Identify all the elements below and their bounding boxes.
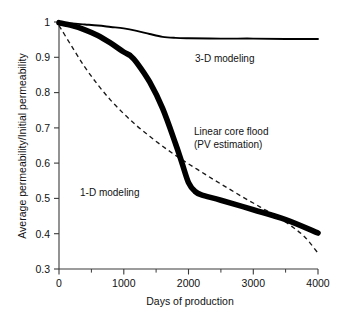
y-axis-ticks xyxy=(54,22,59,269)
y-axis-title: Average permeability/Initial permeabilit… xyxy=(16,53,28,239)
x-tick-label-1000: 1000 xyxy=(112,277,136,289)
x-tick-label-0: 0 xyxy=(56,277,62,289)
y-tick-label-1: 1 xyxy=(44,16,50,28)
y-tick-label-0-3: 0.3 xyxy=(35,263,50,275)
data-series-group xyxy=(59,23,318,253)
annotation-linear-core-flood-line2: (PV estimation) xyxy=(194,139,262,150)
y-tick-label-0-4: 0.4 xyxy=(35,228,50,240)
y-axis-tick-labels: 1 0.9 0.8 0.7 0.6 0.5 0.4 0.3 xyxy=(35,16,50,275)
y-tick-label-0-8: 0.8 xyxy=(35,86,50,98)
series-linear-core-flood xyxy=(59,23,318,233)
x-axis-tick-labels: 0 1000 2000 3000 4000 xyxy=(56,277,330,289)
x-axis-ticks xyxy=(59,269,318,275)
y-tick-label-0-5: 0.5 xyxy=(35,192,50,204)
chart-annotations: 3-D modeling Linear core flood (PV estim… xyxy=(80,53,269,198)
y-tick-label-0-9: 0.9 xyxy=(35,51,50,63)
axis-lines xyxy=(59,22,318,269)
x-axis-title: Days of production xyxy=(146,295,234,307)
x-tick-label-4000: 4000 xyxy=(306,277,330,289)
permeability-decline-chart: 1 0.9 0.8 0.7 0.6 0.5 0.4 0.3 0 100 xyxy=(0,0,348,320)
y-tick-label-0-6: 0.6 xyxy=(35,157,50,169)
annotation-3d-modeling: 3-D modeling xyxy=(195,53,254,64)
annotation-1d-modeling: 1-D modeling xyxy=(80,187,139,198)
chart-canvas: 1 0.9 0.8 0.7 0.6 0.5 0.4 0.3 0 100 xyxy=(0,0,348,320)
annotation-linear-core-flood-line1: Linear core flood xyxy=(194,126,269,137)
y-tick-label-0-7: 0.7 xyxy=(35,122,50,134)
x-tick-label-3000: 3000 xyxy=(242,277,266,289)
x-tick-label-2000: 2000 xyxy=(177,277,201,289)
